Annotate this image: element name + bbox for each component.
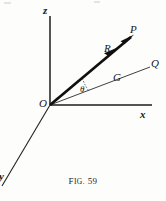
z-axis-label: z bbox=[43, 5, 47, 16]
vector-diagram bbox=[0, 0, 166, 201]
vector-r-label: R bbox=[104, 43, 111, 54]
caption-fig-smallcaps: IG. bbox=[74, 177, 85, 186]
point-q-label: Q bbox=[151, 58, 159, 69]
point-p-label: P bbox=[130, 24, 137, 35]
line-g-label: G bbox=[113, 72, 121, 83]
vector-r-arrowhead bbox=[121, 34, 135, 44]
x-axis-label: x bbox=[140, 109, 146, 120]
origin-label: O bbox=[39, 98, 47, 109]
figure-container: z x y O P Q R G θ FIG. 59 bbox=[0, 0, 166, 201]
figure-caption: FIG. 59 bbox=[0, 176, 166, 186]
y-axis-line bbox=[2, 105, 50, 186]
caption-number: 59 bbox=[88, 176, 98, 186]
angle-theta-label: θ bbox=[80, 85, 84, 94]
line-oq bbox=[50, 67, 150, 105]
